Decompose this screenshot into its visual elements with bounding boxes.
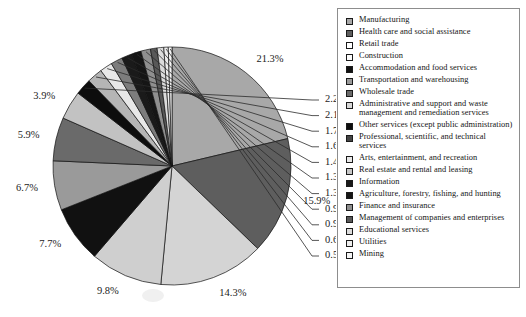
pie-percent-label: 0.9% [325, 218, 336, 229]
legend-item-label: Utilities [359, 238, 386, 247]
pie-percent-label: 0.6% [325, 234, 336, 245]
legend-item-label: Manufacturing [359, 16, 409, 25]
legend-swatch-icon [346, 102, 353, 109]
legend-item-label: Retail trade [359, 40, 398, 49]
legend-item-label: Construction [359, 52, 403, 61]
legend-item: Finance and insurance [346, 202, 513, 211]
legend-item-label: Other services (except public administra… [359, 121, 512, 130]
legend-item: Transportation and warehousing [346, 76, 513, 85]
legend-swatch-icon [346, 54, 353, 61]
legend-item: Information [346, 178, 513, 187]
page-smudge [142, 289, 164, 302]
legend-item: Health care and social assistance [346, 28, 513, 37]
pie-percent-label: 5.9% [18, 129, 40, 140]
legend-swatch-icon [346, 135, 353, 142]
legend-swatch-icon [346, 42, 353, 49]
legend-swatch-icon [346, 168, 353, 175]
legend-swatch-icon [346, 18, 353, 25]
pie-percent-label: 0.9% [325, 203, 336, 214]
legend-swatch-icon [346, 192, 353, 199]
legend-item-label: Information [359, 178, 400, 187]
legend-item-label: Administrative and support and waste man… [359, 100, 513, 118]
pie-percent-label: 1.6% [325, 140, 336, 151]
legend-swatch-icon [346, 180, 353, 187]
legend-item: Construction [346, 52, 513, 61]
legend-item: Agriculture, forestry, fishing, and hunt… [346, 190, 513, 199]
legend-item: Retail trade [346, 40, 513, 49]
legend-item: Real estate and rental and leasing [346, 166, 513, 175]
pie-percent-label: 2.1% [325, 109, 336, 120]
legend-swatch-icon [346, 204, 353, 211]
legend-item: Administrative and support and waste man… [346, 100, 513, 118]
pie-percent-label: 9.8% [97, 285, 119, 296]
legend-item: Accommodation and food services [346, 64, 513, 73]
legend-swatch-icon [346, 216, 353, 223]
chart-legend: ManufacturingHealth care and social assi… [337, 8, 520, 288]
pie-percent-label: 6.7% [16, 182, 38, 193]
pie-percent-label: 3.9% [33, 90, 55, 101]
legend-item: Educational services [346, 226, 513, 235]
legend-swatch-icon [346, 123, 353, 130]
legend-swatch-icon [346, 252, 353, 259]
pie-percent-label: 14.3% [219, 287, 246, 298]
legend-item: Mining [346, 250, 513, 259]
legend-swatch-icon [346, 66, 353, 73]
legend-item-label: Mining [359, 250, 384, 259]
legend-item-label: Management of companies and enterprises [359, 214, 504, 223]
legend-list: ManufacturingHealth care and social assi… [346, 16, 513, 259]
pie-chart-svg: 21.3%15.9%14.3%9.8%7.7%6.7%5.9%3.9%2.2%2… [0, 0, 336, 300]
pie-percent-label: 1.3% [325, 187, 336, 198]
legend-item: Professional, scientific, and technical … [346, 133, 513, 151]
legend-item: Management of companies and enterprises [346, 214, 513, 223]
legend-swatch-icon [346, 156, 353, 163]
legend-swatch-icon [346, 90, 353, 97]
legend-item-label: Health care and social assistance [359, 28, 470, 37]
pie-percent-label: 1.4% [325, 156, 336, 167]
pie-percent-label: 21.3% [256, 53, 283, 64]
legend-item: Arts, entertainment, and recreation [346, 154, 513, 163]
legend-item-label: Wholesale trade [359, 88, 414, 97]
legend-item-label: Educational services [359, 226, 429, 235]
pie-percent-label: 2.2% [325, 93, 336, 104]
pie-chart-figure: 21.3%15.9%14.3%9.8%7.7%6.7%5.9%3.9%2.2%2… [0, 0, 526, 317]
legend-item-label: Arts, entertainment, and recreation [359, 154, 477, 163]
legend-item: Wholesale trade [346, 88, 513, 97]
legend-item-label: Professional, scientific, and technical … [359, 133, 513, 151]
legend-item: Other services (except public administra… [346, 121, 513, 130]
pie-percent-label: 0.5% [325, 249, 336, 260]
pie-percent-label: 7.7% [39, 238, 61, 249]
legend-item-label: Transportation and warehousing [359, 76, 469, 85]
pie-percent-label: 1.7% [325, 125, 336, 136]
legend-swatch-icon [346, 78, 353, 85]
pie-chart-area: 21.3%15.9%14.3%9.8%7.7%6.7%5.9%3.9%2.2%2… [0, 0, 336, 300]
legend-item-label: Accommodation and food services [359, 64, 477, 73]
legend-swatch-icon [346, 240, 353, 247]
legend-item: Utilities [346, 238, 513, 247]
pie-percent-label: 1.3% [325, 171, 336, 182]
legend-item-label: Agriculture, forestry, fishing, and hunt… [359, 190, 501, 199]
legend-item: Manufacturing [346, 16, 513, 25]
legend-item-label: Finance and insurance [359, 202, 435, 211]
legend-item-label: Real estate and rental and leasing [359, 166, 473, 175]
legend-swatch-icon [346, 228, 353, 235]
legend-swatch-icon [346, 30, 353, 37]
